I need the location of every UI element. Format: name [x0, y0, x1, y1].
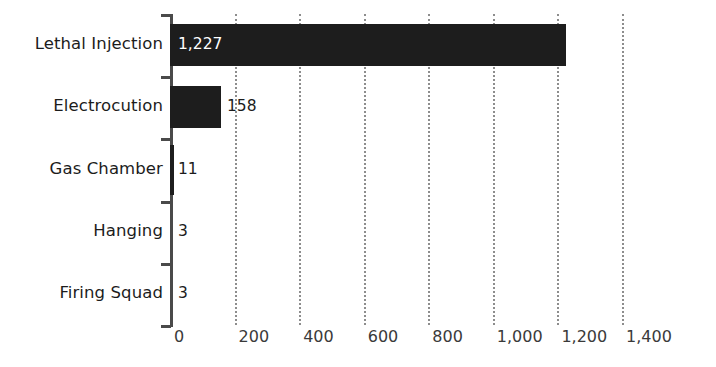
x-tick-label-200: 200 — [239, 327, 270, 346]
category-label-electrocution: Electrocution — [0, 96, 163, 115]
category-label-firing-squad: Firing Squad — [0, 283, 163, 302]
category-label-gas-chamber: Gas Chamber — [0, 159, 163, 178]
y-tick-1 — [161, 76, 171, 79]
bar-value-label: 3 — [178, 222, 188, 240]
y-tick-0 — [161, 14, 171, 17]
category-label-lethal-injection: Lethal Injection — [0, 34, 163, 53]
x-tick-label-600: 600 — [368, 327, 399, 346]
bar-value-label: 1,227 — [178, 35, 222, 53]
x-tick-label-800: 800 — [432, 327, 463, 346]
x-tick-label-1400: 1,400 — [626, 327, 672, 346]
y-tick-3 — [161, 201, 171, 204]
bar-lethal-injection — [170, 24, 566, 66]
gridline-1400 — [622, 14, 624, 325]
y-tick-5 — [161, 325, 171, 328]
bar-value-label: 3 — [178, 284, 188, 302]
y-tick-4 — [161, 263, 171, 266]
bar-gas-chamber — [170, 145, 174, 195]
category-label-hanging: Hanging — [0, 221, 163, 240]
x-tick-label-400: 400 — [303, 327, 334, 346]
x-tick-label-1200: 1,200 — [561, 327, 607, 346]
bar-electrocution — [170, 86, 221, 128]
bar-value-label: 11 — [178, 160, 198, 178]
x-tick-label-1000: 1,000 — [497, 327, 543, 346]
bar-chart: Lethal Injection1,227Electrocution158Gas… — [0, 0, 716, 367]
y-tick-2 — [161, 138, 171, 141]
bar-value-label: 158 — [227, 97, 257, 115]
x-tick-label-0: 0 — [174, 327, 184, 346]
